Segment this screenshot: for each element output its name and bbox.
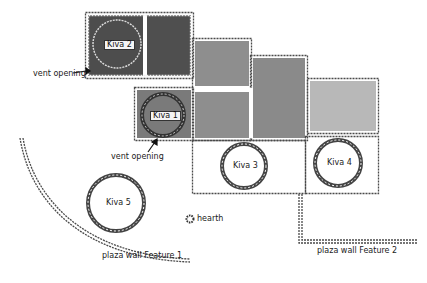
kiva-5-label: Kiva 5 <box>106 199 131 207</box>
rooms <box>88 15 376 138</box>
room-c <box>195 41 249 86</box>
room-f <box>310 81 376 131</box>
plaza-wall-feature-1-label: plaza wall Feature 1 <box>102 252 182 260</box>
vent-opening-label-1: vent opening <box>33 70 86 78</box>
kiva-4-label: Kiva 4 <box>327 159 352 167</box>
site-plan-canvas <box>0 0 427 283</box>
hearth-label: hearth <box>197 215 223 223</box>
room-d <box>195 92 249 138</box>
vent-opening-label-2: vent opening <box>111 153 164 161</box>
kiva-1-label: Kiva 1 <box>150 111 181 121</box>
kiva-3-label: Kiva 3 <box>233 162 258 170</box>
kiva-2-label: Kiva 2 <box>104 40 135 50</box>
hearth-icon <box>187 216 194 223</box>
room-b <box>147 15 191 76</box>
plaza-wall-feature-2-label: plaza wall Feature 2 <box>317 247 397 255</box>
room-e <box>253 58 305 138</box>
